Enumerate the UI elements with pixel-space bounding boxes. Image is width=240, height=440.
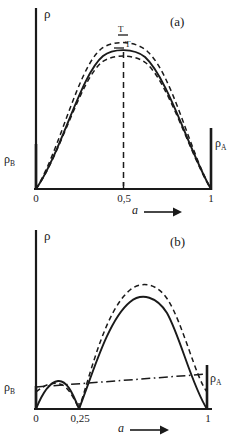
panel-a-xtick-1: 1 [201,192,221,204]
panel-a-rho-b-label: ρB [4,152,15,168]
panel-b-rho-a-subscript: A [216,378,221,387]
panel-b-x-axis-arrow [129,423,171,437]
panel-a-solid-curve [36,50,211,189]
panel-b-plot [0,218,240,440]
panel-b-xtick-quarter: 0,25 [62,412,98,424]
panel-b-x-axis-label: a [118,421,124,436]
panel-b-rho-b-subscript: B [10,387,15,396]
panel-b-solid-right-lobe [79,297,207,409]
panel-a-rho-b-subscript: B [10,159,15,168]
panel-b-rho-b-label: ρB [4,380,15,396]
panel-a-label: (a) [170,14,184,30]
panel-a-temperature-label-1: T [118,24,124,34]
panel-a-x-axis-label: a [132,203,138,218]
panel-a-xtick-0: 0 [25,192,47,204]
panel-b-label: (b) [170,234,185,250]
panel-b-y-axis-label: ρ [44,228,51,244]
panel-a-temperature-label-2: T [125,39,131,49]
panel-a-rho-a-subscript: A [221,143,226,152]
panel-b-xtick-1: 1 [198,412,218,424]
panel-b-dashed-right-lobe [79,285,207,409]
figure-container: (a) ρ ρB ρA T T 0 0,5 1 a [0,0,240,440]
panel-a-x-axis-arrow [143,205,183,219]
panel-a-rho-a-label: ρA [215,136,226,152]
panel-b-rho-a-label: ρA [210,371,221,387]
panel-b: (b) ρ ρB ρA 0 0,25 1 a [0,218,240,440]
panel-a-y-axis-label: ρ [44,6,51,22]
panel-a: (a) ρ ρB ρA T T 0 0,5 1 a [0,0,240,220]
panel-b-xtick-0: 0 [25,412,47,424]
